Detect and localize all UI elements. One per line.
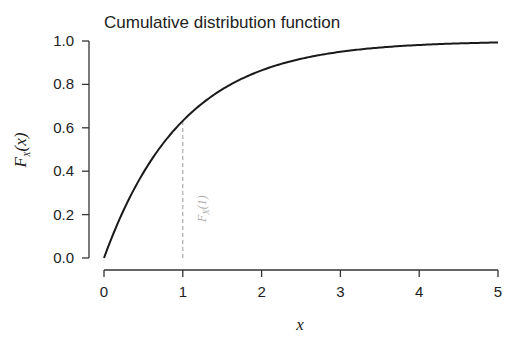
x-tick-label: 3	[336, 283, 344, 300]
x-tick-label: 5	[494, 283, 502, 300]
x-axis-label: x	[295, 315, 304, 334]
y-axis: 0.00.20.40.60.81.0	[53, 32, 89, 266]
x-tick-label: 1	[179, 283, 187, 300]
x-tick-label: 4	[415, 283, 423, 300]
cdf-curve	[104, 42, 498, 258]
y-tick-label: 0.6	[53, 119, 74, 136]
cdf-chart: Cumulative distribution function 0.00.20…	[0, 0, 520, 342]
y-tick-label: 0.0	[53, 249, 74, 266]
x-tick-label: 2	[257, 283, 265, 300]
chart-title: Cumulative distribution function	[104, 13, 340, 32]
y-tick-label: 0.2	[53, 206, 74, 223]
dashed-marker-label: FX(1)	[195, 195, 211, 223]
y-axis-label: FX(x)	[11, 132, 32, 168]
y-tick-label: 1.0	[53, 32, 74, 49]
y-tick-label: 0.4	[53, 162, 74, 179]
x-tick-label: 0	[100, 283, 108, 300]
y-tick-label: 0.8	[53, 75, 74, 92]
x-axis: 012345	[100, 270, 502, 300]
